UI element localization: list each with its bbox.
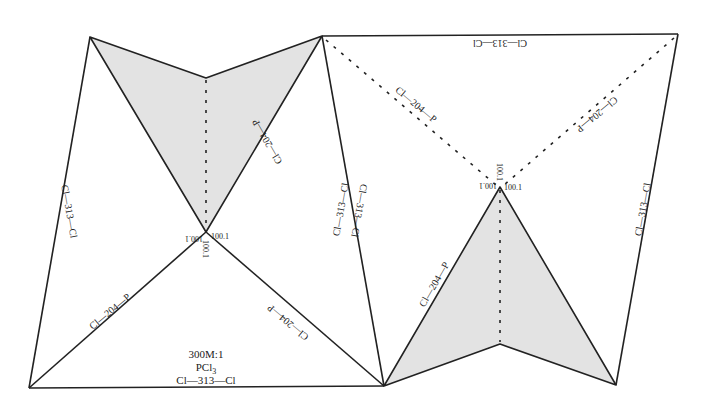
formula-base: PCl [196, 361, 213, 373]
right-shaded-face [384, 187, 616, 386]
label-left-lower-left: Cl—204—P [87, 291, 133, 332]
left-lower-right-edge [206, 232, 384, 386]
label-left-angle-b: 100.1 [211, 232, 229, 241]
left-outer-edge [29, 37, 90, 388]
middle-edge [322, 36, 384, 386]
right-dotted-left [326, 40, 496, 185]
diagram-title-line3: Cl—313—Cl [176, 374, 235, 386]
label-left-outer-edge: Cl—313—Cl [59, 184, 79, 239]
label-right-dotted-right: Cl—204—P [574, 94, 620, 135]
top-right-edge [322, 34, 678, 36]
label-right-outer-edge: Cl—313—Cl [632, 182, 652, 237]
diagram-title-line1: 300M:1 [189, 348, 224, 360]
label-left-lower-right: Cl—204—P [265, 302, 311, 343]
label-left-angle-a: 100.1 [185, 234, 203, 243]
net-diagram: Cl—313—Cl Cl—204—P Cl—204—P Cl—204—P 100… [0, 0, 713, 410]
label-right-top-edge: Cl—313—Cl [473, 38, 527, 49]
label-right-angle-b: 100.1 [504, 183, 522, 192]
label-right-angle-a: 100.1 [479, 181, 497, 190]
label-right-dotted-left: Cl—204—P [394, 84, 440, 125]
label-right-angle-c: 100.1 [495, 163, 504, 181]
label-mid-edge-a: Cl—313—Cl [330, 182, 350, 237]
bottom-left-edge [29, 386, 384, 388]
label-left-angle-c: 100.1 [201, 240, 210, 258]
right-dotted-right [504, 38, 674, 185]
